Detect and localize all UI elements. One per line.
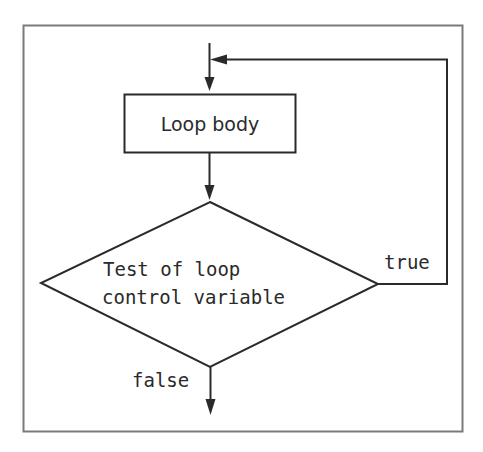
- arrowhead-down-icon: [205, 77, 215, 91]
- test-diamond: [41, 202, 378, 367]
- test-label-line2: control variable: [102, 286, 285, 308]
- loop-flowchart: Loop body Test of loop control variable …: [0, 0, 483, 452]
- test-label-line1: Test of loop: [103, 258, 240, 280]
- arrowhead-down-icon: [205, 185, 215, 200]
- arrowhead-down-icon: [206, 399, 216, 415]
- true-label: true: [384, 251, 430, 273]
- loop-body-label: Loop body: [161, 113, 260, 135]
- false-label: false: [132, 369, 189, 391]
- arrowhead-left-icon: [210, 55, 227, 65]
